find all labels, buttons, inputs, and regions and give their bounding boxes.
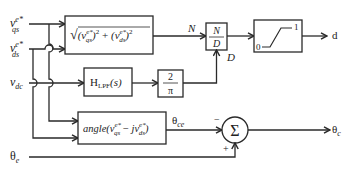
wire-D xyxy=(183,50,217,83)
input-vdc-label: vdc xyxy=(10,75,23,91)
input-theta-e-label: θe xyxy=(10,149,20,165)
wire-vds-branch xyxy=(33,49,78,138)
sum-symbol: Σ xyxy=(230,122,239,139)
control-block-diagram: ve*qs ve*ds vdc θe √(ve*qs)2 + (ve*ds)2 … xyxy=(0,0,350,172)
signal-theta-ce-label: θce xyxy=(172,114,185,129)
wire-vds xyxy=(29,45,65,49)
input-vqs-label: ve*qs xyxy=(10,15,23,34)
divider-numerator: N xyxy=(212,25,221,36)
saturation-low-label: 0 xyxy=(256,42,261,52)
gain-denominator: π xyxy=(168,85,173,96)
output-theta-c-label: θc xyxy=(332,123,341,138)
gain-numerator: 2 xyxy=(168,71,173,82)
sum-minus-sign: − xyxy=(214,114,220,125)
saturation-high-label: 1 xyxy=(294,22,299,32)
signal-D-label: D xyxy=(226,51,235,63)
signal-N-label: N xyxy=(187,22,196,34)
input-vds-label: ve*ds xyxy=(10,40,23,59)
output-d-label: d xyxy=(332,29,338,41)
sum-plus-sign: + xyxy=(223,143,229,154)
divider-denominator: D xyxy=(212,38,221,49)
wire-theta-e xyxy=(29,143,235,157)
